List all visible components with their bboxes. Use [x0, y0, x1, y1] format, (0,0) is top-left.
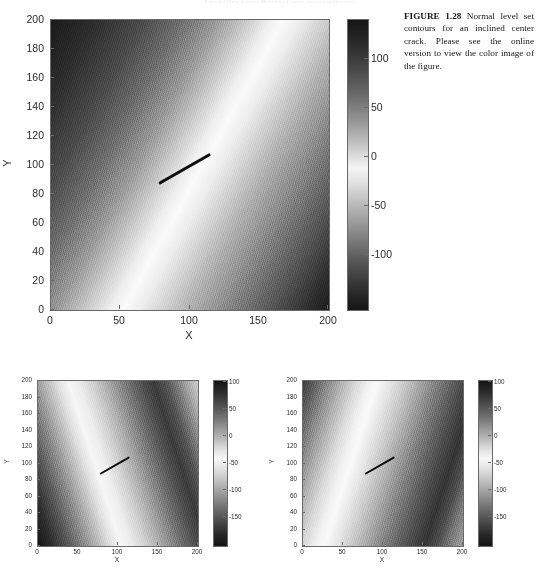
main-ytickmark	[50, 251, 54, 252]
bl-ytickmark	[37, 496, 40, 497]
bl-ytick-140: 140	[8, 426, 32, 433]
br-ytickmark	[302, 479, 305, 480]
bl-ytick-20: 20	[8, 525, 32, 532]
br-xtick-200: 200	[453, 548, 471, 555]
br-cbar-tickmark	[488, 462, 491, 463]
bl-x-axis-title: X	[108, 556, 126, 563]
br-ytickmark	[302, 545, 305, 546]
bl-ytickmark	[37, 413, 40, 414]
main-ytick-200: 200	[8, 13, 44, 25]
main-cbar-tick-0: 0	[371, 150, 405, 162]
br-cbar-tick--50: -50	[494, 459, 516, 466]
main-cbar-tickmark	[364, 58, 368, 59]
br-ytick-140: 140	[273, 426, 297, 433]
bl-cbar-tick--150: -150	[229, 513, 251, 520]
figure-caption-label: FIGURE 1.28	[404, 11, 461, 21]
br-ytick-60: 60	[273, 492, 297, 499]
br-ytickmark	[302, 430, 305, 431]
main-ytickmark	[50, 280, 54, 281]
bl-ytick-100: 100	[8, 459, 32, 466]
bl-ytick-120: 120	[8, 442, 32, 449]
bl-y-axis-title: Y	[3, 452, 10, 472]
bottom-left-plot-area	[37, 380, 199, 547]
bl-ytickmark	[37, 463, 40, 464]
bl-cbar-tickmark	[223, 516, 226, 517]
br-cbar-tick--100: -100	[494, 486, 516, 493]
br-xtickmark	[382, 542, 383, 545]
bottom-right-colorbar	[478, 380, 493, 547]
br-cbar-tickmark	[488, 381, 491, 382]
br-ytickmark	[302, 446, 305, 447]
bottom-left-plot-panel: 200 180 160 140 120 100 80 60 40 20 0 0 …	[0, 375, 265, 576]
bl-xtick-100: 100	[108, 548, 126, 555]
main-xtick-0: 0	[36, 314, 64, 326]
br-ytick-100: 100	[273, 459, 297, 466]
main-ytick-120: 120	[8, 129, 44, 141]
main-xtickmark	[50, 305, 51, 309]
br-xtick-100: 100	[373, 548, 391, 555]
bl-ytickmark	[37, 529, 40, 530]
bl-ytickmark	[37, 397, 40, 398]
bl-ytickmark	[37, 479, 40, 480]
bl-xtick-150: 150	[148, 548, 166, 555]
bl-xtick-200: 200	[188, 548, 206, 555]
bl-ytick-180: 180	[8, 393, 32, 400]
main-cbar-tickmark	[364, 107, 368, 108]
br-cbar-tick-50: 50	[494, 405, 516, 412]
main-ytick-40: 40	[8, 245, 44, 257]
main-xtick-150: 150	[244, 314, 272, 326]
bl-cbar-tickmark	[223, 489, 226, 490]
br-x-axis-title: X	[373, 556, 391, 563]
bottom-right-plot-area	[302, 380, 464, 547]
main-ytickmark	[50, 135, 54, 136]
bl-cbar-tick-50: 50	[229, 405, 251, 412]
main-ytick-60: 60	[8, 216, 44, 228]
main-cbar-tick-100: 100	[371, 52, 405, 64]
br-y-axis-title: Y	[268, 452, 275, 472]
main-cbar-tickmark	[364, 205, 368, 206]
main-xtick-200: 200	[314, 314, 342, 326]
main-ytickmark	[50, 77, 54, 78]
main-y-axis-title: Y	[1, 148, 13, 178]
bl-cbar-tick--50: -50	[229, 459, 251, 466]
main-ytickmark	[50, 193, 54, 194]
bl-xtickmark	[117, 542, 118, 545]
br-cbar-tickmark	[488, 489, 491, 490]
main-ytickmark	[50, 106, 54, 107]
br-cbar-tick-0: 0	[494, 432, 516, 439]
br-ytick-120: 120	[273, 442, 297, 449]
main-colorbar	[347, 19, 369, 311]
main-xtickmark	[327, 305, 328, 309]
main-cbar-tick--100: -100	[371, 248, 405, 260]
br-xtick-50: 50	[333, 548, 351, 555]
main-x-axis-title: X	[175, 329, 203, 341]
main-colorbar-gradient	[348, 20, 368, 310]
main-ytick-20: 20	[8, 274, 44, 286]
bl-xtick-0: 0	[28, 548, 46, 555]
main-ytickmark	[50, 222, 54, 223]
bl-ytick-40: 40	[8, 508, 32, 515]
br-ytickmark	[302, 380, 305, 381]
br-ytick-40: 40	[273, 508, 297, 515]
bottom-left-colorbar	[213, 380, 228, 547]
br-ytickmark	[302, 496, 305, 497]
figure-caption: FIGURE 1.28 Normal level set contours fo…	[404, 10, 534, 72]
br-xtick-0: 0	[293, 548, 311, 555]
br-cbar-tickmark	[488, 408, 491, 409]
bl-cbar-tick-100: 100	[229, 378, 251, 385]
bl-ytickmark	[37, 446, 40, 447]
figure-page: Extended Finite Element Method for Fract…	[0, 0, 538, 576]
br-colorbar-gradient	[479, 381, 492, 546]
bl-ytick-80: 80	[8, 475, 32, 482]
br-ytick-180: 180	[273, 393, 297, 400]
main-cbar-tick--50: -50	[371, 199, 405, 211]
bl-cbar-tick--100: -100	[229, 486, 251, 493]
main-cbar-tickmark	[364, 156, 368, 157]
bl-cbar-tick-0: 0	[229, 432, 251, 439]
main-ytickmark	[50, 19, 54, 20]
bottom-right-plot-panel: 200 180 160 140 120 100 80 60 40 20 0 0 …	[265, 375, 538, 576]
main-ytickmark	[50, 48, 54, 49]
br-cbar-tick--150: -150	[494, 513, 516, 520]
main-cbar-tick-50: 50	[371, 101, 405, 113]
br-ytickmark	[302, 397, 305, 398]
